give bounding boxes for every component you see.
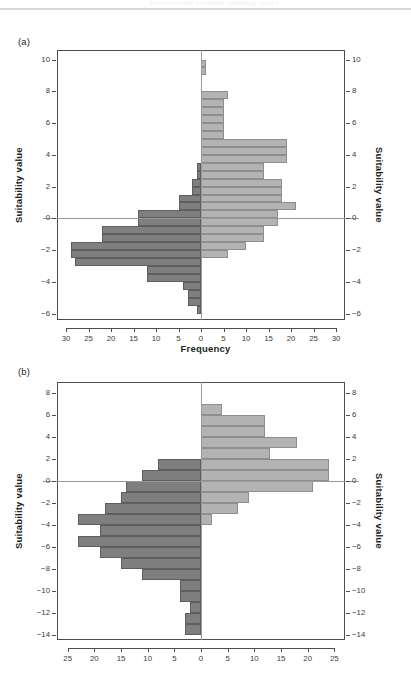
x-tick-label: 0 bbox=[191, 654, 211, 663]
x-tick-mark bbox=[94, 648, 95, 652]
x-tick-mark bbox=[134, 328, 135, 332]
y-tick-mark bbox=[52, 613, 56, 614]
y-tick-mark bbox=[52, 314, 56, 315]
histogram-bar-positive bbox=[201, 210, 278, 218]
y-tick-label: 0 bbox=[352, 476, 374, 485]
x-tick-label: 15 bbox=[124, 334, 144, 343]
histogram-bar-negative bbox=[105, 503, 201, 514]
panel-a-xlabel: Frequency bbox=[0, 343, 411, 354]
y-tick-mark bbox=[346, 123, 350, 124]
y-tick-label: −14 bbox=[28, 630, 50, 639]
x-tick-mark bbox=[254, 648, 255, 652]
x-tick-label: 5 bbox=[218, 654, 238, 663]
x-tick-label: 5 bbox=[169, 334, 189, 343]
y-tick-mark bbox=[52, 250, 56, 251]
histogram-bar-negative bbox=[121, 558, 201, 569]
y-tick-label: 8 bbox=[28, 86, 50, 95]
histogram-bar-positive bbox=[201, 470, 329, 481]
panel-a-tag: (a) bbox=[18, 36, 30, 47]
histogram-bar-negative bbox=[190, 602, 201, 613]
y-tick-label: −6 bbox=[352, 309, 374, 318]
y-tick-mark bbox=[52, 187, 56, 188]
panel-b-tag: (b) bbox=[18, 366, 30, 377]
y-tick-label: −8 bbox=[352, 564, 374, 573]
x-tick-mark bbox=[111, 328, 112, 332]
histogram-bar-negative bbox=[158, 459, 201, 470]
y-tick-label: −4 bbox=[352, 277, 374, 286]
histogram-bar-positive bbox=[201, 179, 282, 187]
zero-vertical-line bbox=[201, 382, 202, 640]
histogram-bar-positive bbox=[201, 187, 282, 195]
y-tick-label: 10 bbox=[28, 55, 50, 64]
histogram-bar-positive bbox=[201, 195, 282, 203]
y-tick-mark bbox=[346, 187, 350, 188]
header-rule bbox=[0, 8, 411, 10]
y-tick-mark bbox=[346, 250, 350, 251]
figure-page: Environmental suitability modelling resu… bbox=[0, 0, 411, 679]
histogram-bar-positive bbox=[201, 426, 265, 437]
x-tick-label: 20 bbox=[281, 334, 301, 343]
y-tick-mark bbox=[346, 393, 350, 394]
y-tick-label: 6 bbox=[352, 118, 374, 127]
histogram-bar-negative bbox=[71, 250, 202, 258]
histogram-bar-negative bbox=[180, 591, 201, 602]
y-tick-mark bbox=[52, 525, 56, 526]
x-tick-mark bbox=[174, 648, 175, 652]
y-tick-label: 0 bbox=[28, 213, 50, 222]
x-tick-label: 30 bbox=[326, 334, 346, 343]
y-tick-mark bbox=[52, 635, 56, 636]
y-tick-mark bbox=[52, 437, 56, 438]
histogram-bar-negative bbox=[100, 525, 201, 536]
histogram-bar-negative bbox=[102, 226, 201, 234]
histogram-bar-negative bbox=[138, 210, 201, 218]
y-tick-label: 8 bbox=[352, 86, 374, 95]
histogram-bar-negative bbox=[100, 547, 201, 558]
y-tick-mark bbox=[346, 591, 350, 592]
histogram-bar-positive bbox=[201, 459, 329, 470]
x-tick-label: 10 bbox=[138, 654, 158, 663]
y-tick-mark bbox=[52, 481, 56, 482]
histogram-bar-positive bbox=[201, 448, 270, 459]
x-tick-mark bbox=[224, 328, 225, 332]
panel-a-ylabel-left: Suitability value bbox=[13, 147, 24, 223]
panel-a-ylabel-right: Suitability value bbox=[374, 147, 385, 223]
histogram-bar-positive bbox=[201, 115, 224, 123]
y-tick-mark bbox=[52, 282, 56, 283]
y-tick-label: 4 bbox=[352, 150, 374, 159]
x-tick-mark bbox=[121, 648, 122, 652]
histogram-bar-negative bbox=[147, 274, 201, 282]
y-tick-mark bbox=[346, 60, 350, 61]
y-tick-mark bbox=[346, 635, 350, 636]
histogram-bar-negative bbox=[121, 492, 201, 503]
x-tick-label: 20 bbox=[101, 334, 121, 343]
y-tick-mark bbox=[52, 415, 56, 416]
panel-b-ylabel-right: Suitability value bbox=[374, 473, 385, 549]
histogram-bar-positive bbox=[201, 404, 222, 415]
x-tick-label: 5 bbox=[214, 334, 234, 343]
header-running-text: Environmental suitability modelling resu… bbox=[150, 0, 400, 7]
histogram-bar-positive bbox=[201, 99, 224, 107]
histogram-bar-positive bbox=[201, 242, 246, 250]
histogram-bar-positive bbox=[201, 163, 264, 171]
y-tick-mark bbox=[346, 481, 350, 482]
x-tick-mark bbox=[314, 328, 315, 332]
histogram-bar-positive bbox=[201, 437, 297, 448]
x-tick-mark bbox=[156, 328, 157, 332]
y-tick-mark bbox=[52, 569, 56, 570]
y-tick-mark bbox=[346, 282, 350, 283]
y-tick-mark bbox=[346, 525, 350, 526]
x-tick-label: 25 bbox=[79, 334, 99, 343]
y-tick-label: 2 bbox=[28, 454, 50, 463]
y-tick-label: 4 bbox=[352, 432, 374, 441]
x-tick-mark bbox=[68, 648, 69, 652]
y-tick-label: −8 bbox=[28, 564, 50, 573]
y-tick-label: 6 bbox=[352, 410, 374, 419]
y-tick-label: −14 bbox=[352, 630, 374, 639]
x-tick-label: 0 bbox=[191, 334, 211, 343]
x-tick-mark bbox=[334, 648, 335, 652]
x-tick-label: 25 bbox=[304, 334, 324, 343]
histogram-bar-positive bbox=[201, 131, 224, 139]
y-tick-mark bbox=[346, 314, 350, 315]
y-tick-mark bbox=[346, 569, 350, 570]
x-tick-label: 10 bbox=[244, 654, 264, 663]
